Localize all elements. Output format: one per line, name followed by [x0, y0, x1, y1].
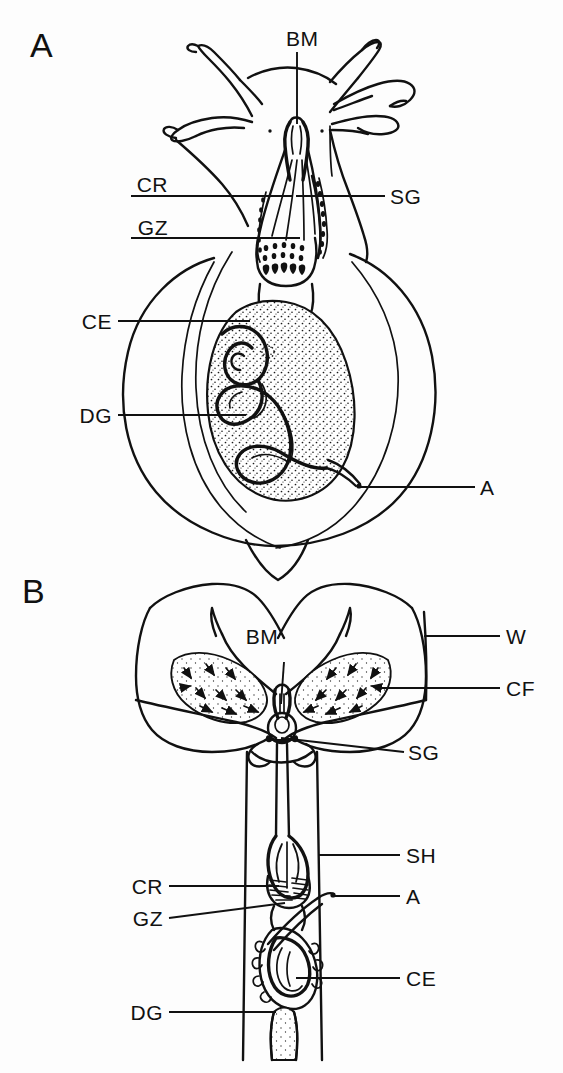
label-bm-panel-a: BM — [286, 28, 319, 49]
sheath-left — [243, 752, 247, 1060]
panel-a-drawing — [118, 40, 475, 580]
label-dg-panel-b: DG — [131, 1002, 164, 1023]
panel-letter-a: A — [30, 28, 53, 62]
label-bm-panel-b: BM — [246, 626, 279, 647]
label-ce-panel-b: CE — [406, 968, 436, 989]
leader-gz-b — [169, 903, 285, 918]
label-cr-panel-b: CR — [132, 876, 163, 897]
label-sh-panel-b: SH — [406, 845, 436, 866]
panel-b-drawing — [136, 584, 500, 1060]
anatomical-figure: A BM CR GZ CE DG SG A B BM W CF SG SH A … — [0, 0, 563, 1073]
label-gz-panel-b: GZ — [133, 908, 163, 929]
gizzard-denticles — [263, 242, 306, 275]
label-a-panel-a: A — [480, 477, 495, 498]
label-cr-panel-a: CR — [137, 174, 168, 195]
label-w-panel-b: W — [506, 626, 526, 647]
label-sg-panel-b: SG — [408, 742, 439, 763]
label-gz-panel-a: GZ — [138, 217, 168, 238]
label-a-panel-b: A — [406, 886, 421, 907]
label-ce-panel-a: CE — [82, 311, 112, 332]
panel-letter-b: B — [22, 574, 45, 608]
label-cf-panel-b: CF — [506, 678, 535, 699]
label-sg-panel-a: SG — [390, 186, 421, 207]
label-dg-panel-a: DG — [80, 405, 113, 426]
figure-linework — [0, 0, 563, 1073]
